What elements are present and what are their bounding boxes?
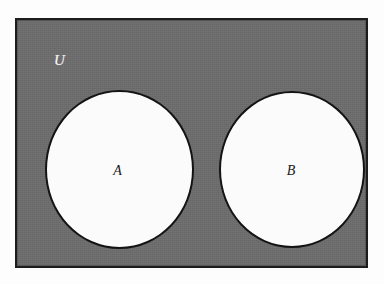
set-label-b: B	[287, 164, 296, 178]
venn-diagram-figure: U A B	[0, 0, 384, 284]
set-circle-b: B	[219, 91, 365, 248]
set-circle-a: A	[45, 90, 194, 249]
universal-set-region: U A B	[15, 18, 368, 268]
set-label-a: A	[113, 164, 122, 178]
universal-set-label: U	[54, 53, 65, 68]
